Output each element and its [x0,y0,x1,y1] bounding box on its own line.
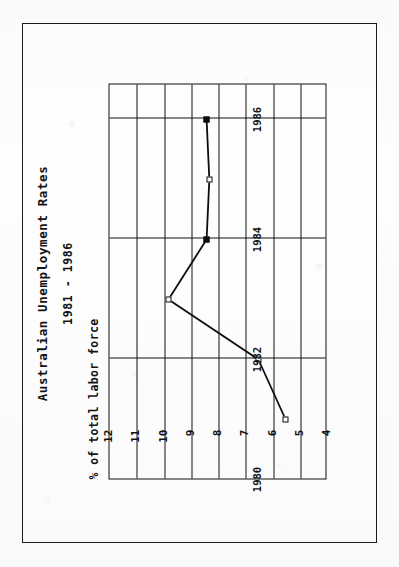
data-point-marker [206,176,212,182]
y-tick-label: 7 [238,429,251,436]
y-tick-label: 9 [183,429,196,436]
y-tick-label: 6 [265,429,278,436]
y-tick-label: 11 [129,429,142,442]
page-border-frame: Australian Unemployment Rates 1981 - 198… [22,23,377,543]
y-tick-label: 4 [320,429,333,436]
chart-title: Australian Unemployment Rates [34,25,49,541]
x-tick-label: 1984 [250,226,262,251]
y-axis-label: % of total labor force [86,318,100,479]
data-point-marker [282,416,288,422]
x-tick-label: 1980 [250,466,262,491]
rotated-chart-stage: Australian Unemployment Rates 1981 - 198… [24,25,375,541]
chart-subtitle: 1981 - 1986 [60,25,74,541]
data-point-marker [203,236,209,242]
scanned-page: Australian Unemployment Rates 1981 - 198… [0,0,399,567]
data-series-layer [108,83,326,479]
y-tick-label: 12 [102,429,115,442]
x-tick-label: 1986 [250,106,262,131]
y-tick-label: 10 [156,429,169,442]
x-tick-label: 1982 [250,346,262,371]
y-tick-label: 5 [292,429,305,436]
y-tick-label: 8 [211,429,224,436]
data-point-marker [203,116,209,122]
data-point-marker [165,296,171,302]
series-line [108,83,326,479]
